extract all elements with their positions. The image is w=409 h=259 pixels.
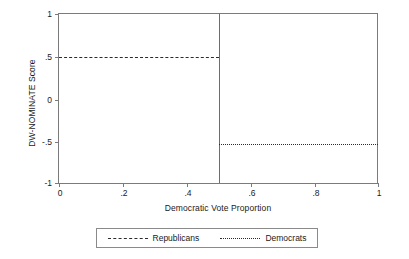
- x-tick-0_8: .8: [315, 183, 316, 187]
- series-line-democrats: [219, 144, 378, 145]
- legend-label-republicans: Republicans: [153, 233, 200, 244]
- legend-entry-republicans: Republicans: [108, 233, 200, 244]
- chart-legend: Republicans Democrats: [96, 228, 318, 248]
- y-tick-1: 1: [55, 14, 59, 15]
- x-tick-label-0_8: .8: [302, 188, 330, 199]
- x-axis-title: Democratic Vote Proportion: [58, 203, 378, 213]
- y-tick-0: 0: [55, 100, 59, 101]
- x-tick-label-1: 1: [365, 188, 393, 199]
- legend-label-democrats: Democrats: [265, 233, 306, 244]
- legend-key-dashed-icon: [108, 238, 148, 239]
- x-tick-label-0_4: .4: [174, 188, 202, 199]
- series-line-republicans: [59, 57, 219, 58]
- x-tick-1: 1: [378, 183, 379, 187]
- x-tick-0_4: .4: [187, 183, 188, 187]
- x-tick-label-0: 0: [46, 188, 74, 199]
- y-tick-label-1: 1: [47, 9, 52, 20]
- y-tick-label-neg0_5: -.5: [42, 137, 52, 148]
- chart-figure: DW-NOMINATE Score 1 .5 0 -.5 -1 0 .2 .4 …: [0, 0, 409, 259]
- x-tick-0_2: .2: [123, 183, 124, 187]
- x-tick-label-0_6: .6: [238, 188, 266, 199]
- legend-entry-democrats: Democrats: [220, 233, 306, 244]
- x-tick-label-0_2: .2: [110, 188, 138, 199]
- plot-area: 1 .5 0 -.5 -1 0 .2 .4 .6 .8 1: [58, 13, 378, 184]
- legend-key-dotted-icon: [220, 238, 260, 239]
- y-tick-neg0_5: -.5: [55, 142, 59, 143]
- y-tick-label-0_5: .5: [45, 52, 52, 63]
- x-tick-0: 0: [59, 183, 60, 187]
- y-axis-title: DW-NOMINATE Score: [27, 23, 37, 183]
- x-tick-0_6: .6: [251, 183, 252, 187]
- cutoff-line: [219, 14, 220, 183]
- y-tick-label-0: 0: [47, 95, 52, 106]
